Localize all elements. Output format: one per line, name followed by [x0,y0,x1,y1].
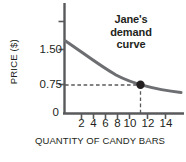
x-tick-label-10: 10 [121,118,139,130]
y-axis-title: PRICE ($) [9,31,19,93]
annotation-line-3: curve [88,38,174,51]
demand-curve-figure: PRICE ($) QUANTITY OF CANDY BARS 1.50 0.… [0,0,186,162]
y-tick-label-0: 0 [19,107,59,119]
x-tick-label-12: 12 [139,118,157,130]
annotation-line-1: Jane's [88,13,174,26]
y-tick-label-150: 1.50 [22,44,62,56]
x-tick-label-14: 14 [157,118,175,130]
y-tick-label-075: 0.75 [22,79,62,91]
marked-point-dot [136,81,144,89]
curve-annotation: Jane's demand curve [88,13,174,51]
x-axis-title: QUANTITY OF CANDY BARS [20,136,180,146]
annotation-line-2: demand [88,26,174,39]
